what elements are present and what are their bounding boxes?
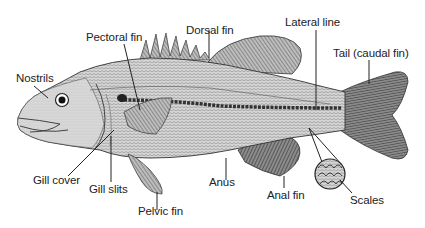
caudal-fin bbox=[340, 72, 408, 159]
label-gill-cover: Gill cover bbox=[33, 175, 80, 187]
label-dorsal-fin: Dorsal fin bbox=[186, 25, 234, 37]
label-lateral-line: Lateral line bbox=[285, 17, 340, 29]
head bbox=[17, 78, 104, 148]
spiny-dorsal-fin bbox=[140, 33, 210, 60]
label-anus: Anus bbox=[209, 177, 235, 189]
pelvic-fin-shape bbox=[128, 154, 162, 194]
fish-anatomy-diagram: Nostrils Pectoral fin Dorsal fin Lateral… bbox=[0, 0, 425, 228]
label-pelvic-fin: Pelvic fin bbox=[138, 206, 183, 218]
label-pectoral-fin: Pectoral fin bbox=[86, 32, 142, 44]
label-scales: Scales bbox=[350, 195, 384, 207]
label-tail-caudal-fin: Tail (caudal fin) bbox=[333, 48, 409, 60]
label-gill-slits: Gill slits bbox=[89, 184, 128, 196]
label-anal-fin: Anal fin bbox=[267, 190, 305, 202]
label-nostrils: Nostrils bbox=[16, 73, 54, 85]
